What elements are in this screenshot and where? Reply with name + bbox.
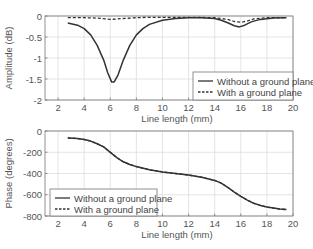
x-tick-label: 12	[183, 102, 194, 113]
legend-label: Without a ground plane	[217, 76, 313, 87]
x-tick-label: 8	[134, 102, 139, 113]
chart-figure: 24681012141618200-0.5-1-1.5-2Line length…	[0, 0, 313, 249]
x-tick-label: 2	[55, 102, 60, 113]
x-tick-label: 2	[55, 218, 60, 229]
y-tick-label: -2	[34, 95, 42, 106]
x-tick-label: 4	[82, 218, 87, 229]
x-tick-label: 12	[183, 218, 194, 229]
legend-label: With a ground plane	[74, 204, 159, 215]
x-tick-label: 20	[288, 102, 299, 113]
y-tick-label: -200	[23, 147, 42, 158]
y-axis-label: Phase (degrees)	[3, 138, 14, 208]
x-tick-label: 18	[262, 218, 273, 229]
legend: Without a ground planeWith a ground plan…	[50, 189, 172, 216]
x-tick-label: 16	[236, 102, 247, 113]
amplitude-plot: 24681012141618200-0.5-1-1.5-2Line length…	[3, 11, 313, 125]
x-axis-label: Line length (mm)	[141, 113, 212, 124]
x-tick-label: 10	[157, 102, 168, 113]
y-tick-label: -800	[23, 211, 42, 222]
x-tick-label: 10	[157, 218, 168, 229]
y-axis-label: Amplitude (dB)	[3, 27, 14, 90]
x-tick-label: 14	[209, 218, 220, 229]
x-tick-label: 20	[288, 218, 299, 229]
y-tick-label: -0.5	[26, 32, 42, 43]
y-tick-label: 0	[37, 11, 42, 22]
legend: Without a ground planeWith a ground plan…	[193, 72, 313, 100]
y-tick-label: -1.5	[26, 74, 42, 85]
legend-label: Without a ground plane	[74, 193, 172, 204]
x-tick-label: 6	[108, 218, 113, 229]
x-tick-label: 18	[262, 102, 273, 113]
x-tick-label: 16	[236, 218, 247, 229]
x-tick-label: 4	[82, 102, 87, 113]
y-tick-label: -1	[34, 53, 42, 64]
x-tick-label: 14	[209, 102, 220, 113]
x-tick-label: 8	[134, 218, 139, 229]
phase-plot: 24681012141618200-200-400-600-800Line le…	[3, 126, 298, 241]
legend-label: With a ground plane	[217, 87, 302, 98]
y-tick-label: -600	[23, 189, 42, 200]
x-axis-label: Line length (mm)	[141, 229, 212, 240]
x-tick-label: 6	[108, 102, 113, 113]
y-tick-label: -400	[23, 168, 42, 179]
y-tick-label: 0	[37, 126, 42, 137]
